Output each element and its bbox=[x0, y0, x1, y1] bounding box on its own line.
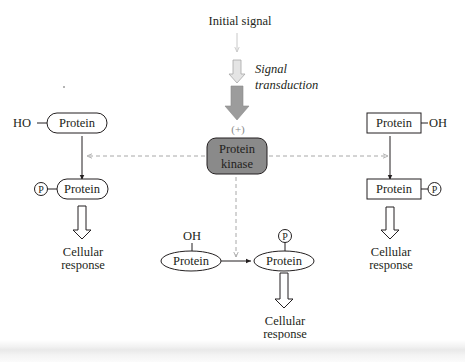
center-response-arrow-icon bbox=[275, 273, 293, 308]
signal-transduction-label-line2: transduction bbox=[255, 78, 318, 92]
left-phosphate-label: P bbox=[38, 184, 44, 195]
transduction-arrow-light-icon bbox=[229, 60, 245, 83]
left-response-line2: response bbox=[61, 258, 105, 272]
left-ho-label: HO bbox=[13, 116, 31, 130]
diagram-canvas: Initial signal Signal transduction (+) P… bbox=[0, 0, 465, 362]
center-response-line1: Cellular bbox=[265, 314, 306, 328]
left-protein-label-after: Protein bbox=[64, 182, 101, 196]
page-edge-shadow bbox=[0, 340, 465, 362]
stray-dot bbox=[63, 86, 65, 88]
transduction-arrow-dark-icon bbox=[225, 86, 249, 120]
center-phosphate-label: P bbox=[282, 231, 288, 242]
right-oh-label: OH bbox=[429, 116, 447, 130]
center-protein-label-before: Protein bbox=[173, 254, 210, 268]
center-oh-label: OH bbox=[183, 229, 201, 243]
left-response-arrow-icon bbox=[73, 206, 91, 239]
right-response-line1: Cellular bbox=[371, 245, 412, 259]
protein-kinase-signaling-diagram: Initial signal Signal transduction (+) P… bbox=[0, 0, 465, 362]
signal-transduction-label-line1: Signal bbox=[255, 62, 287, 76]
right-protein-label-before: Protein bbox=[376, 116, 413, 130]
left-branch: HO Protein P Protein Cellular response bbox=[13, 113, 108, 272]
initial-signal-label: Initial signal bbox=[209, 14, 272, 28]
right-protein-label-after: Protein bbox=[376, 182, 413, 196]
right-branch: Protein OH Protein P Cellular response bbox=[367, 113, 447, 272]
center-response-line2: response bbox=[263, 327, 307, 341]
center-branch: OH Protein P Protein Cellular response bbox=[161, 229, 314, 341]
activation-sign: (+) bbox=[231, 123, 245, 136]
left-protein-label-before: Protein bbox=[59, 116, 96, 130]
right-phosphate-label: P bbox=[432, 184, 438, 195]
right-response-arrow-icon bbox=[381, 207, 399, 239]
center-protein-label-after: Protein bbox=[266, 254, 303, 268]
left-response-line1: Cellular bbox=[63, 245, 104, 259]
protein-kinase-label-line2: kinase bbox=[221, 157, 253, 171]
right-response-line2: response bbox=[369, 258, 413, 272]
protein-kinase-label-line1: Protein bbox=[219, 142, 256, 156]
